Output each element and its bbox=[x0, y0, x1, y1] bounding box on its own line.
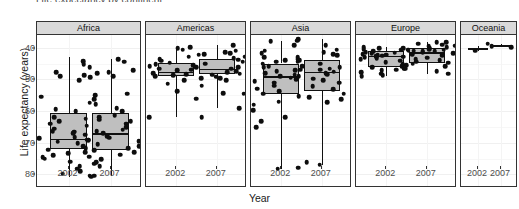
grid-line-minor bbox=[146, 159, 245, 160]
x-tick-label: 2007 bbox=[206, 168, 226, 178]
data-point bbox=[118, 152, 123, 157]
grid-line-minor bbox=[461, 64, 516, 65]
data-point bbox=[189, 68, 194, 73]
grid-line-minor bbox=[251, 159, 350, 160]
y-axis: Life expectancy (years) 8070605040 bbox=[0, 0, 35, 209]
data-point bbox=[228, 51, 233, 56]
data-point bbox=[111, 74, 116, 79]
data-point bbox=[295, 59, 300, 64]
data-point bbox=[221, 91, 226, 96]
data-point bbox=[416, 42, 421, 47]
data-point bbox=[435, 40, 440, 45]
boxplot-whisker-lower bbox=[427, 63, 428, 74]
facet-strip-label: Europe bbox=[355, 21, 456, 35]
data-point bbox=[254, 125, 259, 130]
data-point bbox=[94, 102, 99, 107]
data-point bbox=[261, 92, 266, 97]
grid-line-minor bbox=[146, 127, 245, 128]
boxplot-whisker-lower bbox=[322, 91, 323, 164]
data-point bbox=[255, 86, 260, 91]
x-tick-mark bbox=[68, 166, 69, 169]
grid-line bbox=[461, 111, 516, 112]
data-point bbox=[240, 59, 245, 64]
x-tick-label: 2002 bbox=[270, 168, 290, 178]
y-tick-mark bbox=[32, 142, 35, 143]
data-point bbox=[380, 73, 385, 78]
data-point bbox=[274, 59, 279, 64]
grid-line-minor bbox=[461, 127, 516, 128]
boxplot-whisker-lower bbox=[386, 67, 387, 76]
data-point bbox=[55, 139, 60, 144]
data-point bbox=[114, 106, 119, 111]
data-point bbox=[121, 127, 126, 132]
data-point bbox=[81, 62, 86, 67]
data-point bbox=[251, 102, 256, 107]
data-point bbox=[126, 146, 131, 151]
data-point bbox=[337, 80, 342, 85]
data-point bbox=[242, 54, 246, 59]
data-point bbox=[122, 59, 127, 64]
grid-line bbox=[461, 143, 516, 144]
data-point bbox=[85, 124, 90, 129]
data-point bbox=[399, 47, 404, 52]
data-point bbox=[202, 52, 207, 57]
facet-strip-label: Oceania bbox=[460, 21, 517, 35]
data-point bbox=[200, 115, 205, 120]
data-point bbox=[52, 115, 57, 120]
x-tick-label: 2007 bbox=[416, 168, 436, 178]
data-point bbox=[311, 76, 316, 81]
data-point bbox=[78, 169, 83, 174]
data-point bbox=[157, 66, 162, 71]
chart-title-cutoff: Life expectancy by continent bbox=[36, 0, 266, 2]
data-point bbox=[300, 64, 305, 69]
data-point bbox=[231, 43, 236, 48]
data-point bbox=[224, 78, 229, 83]
grid-line bbox=[461, 79, 516, 80]
plot-area bbox=[460, 35, 517, 187]
x-tick-mark bbox=[477, 166, 478, 169]
data-point bbox=[283, 58, 288, 63]
facet-strip-label: Africa bbox=[36, 21, 141, 35]
grid-line bbox=[356, 79, 455, 80]
data-point bbox=[325, 100, 330, 105]
data-point bbox=[509, 45, 514, 50]
data-point bbox=[322, 50, 327, 55]
data-point bbox=[251, 108, 256, 113]
data-point bbox=[83, 132, 88, 137]
grid-line bbox=[356, 111, 455, 112]
x-tick-mark bbox=[216, 166, 217, 169]
data-point bbox=[335, 53, 340, 58]
grid-line-minor bbox=[356, 95, 455, 96]
grid-line bbox=[251, 111, 350, 112]
data-point bbox=[167, 60, 172, 65]
data-point bbox=[87, 65, 92, 70]
grid-line bbox=[146, 111, 245, 112]
data-point bbox=[43, 157, 48, 162]
data-point bbox=[182, 78, 187, 83]
data-point bbox=[58, 74, 63, 79]
data-point bbox=[434, 69, 439, 74]
data-point bbox=[113, 113, 118, 118]
data-point bbox=[263, 71, 268, 76]
data-point bbox=[94, 129, 99, 134]
data-point bbox=[87, 100, 92, 105]
x-tick-label: 2007 bbox=[311, 168, 331, 178]
data-point bbox=[288, 75, 293, 80]
x-tick-label: 2002 bbox=[165, 168, 185, 178]
data-point bbox=[473, 48, 478, 53]
data-point bbox=[297, 74, 302, 79]
data-point bbox=[46, 147, 51, 152]
x-tick-mark bbox=[426, 166, 427, 169]
data-point bbox=[307, 95, 312, 100]
data-point bbox=[87, 154, 92, 159]
data-point bbox=[218, 76, 223, 81]
data-point bbox=[116, 57, 121, 62]
data-point bbox=[261, 65, 266, 70]
boxplot-whisker-upper bbox=[111, 59, 112, 113]
x-tick-mark bbox=[175, 166, 176, 169]
data-point bbox=[401, 54, 406, 59]
data-point bbox=[384, 52, 389, 57]
data-point bbox=[187, 54, 192, 59]
data-point bbox=[266, 64, 271, 69]
data-point bbox=[440, 53, 445, 58]
